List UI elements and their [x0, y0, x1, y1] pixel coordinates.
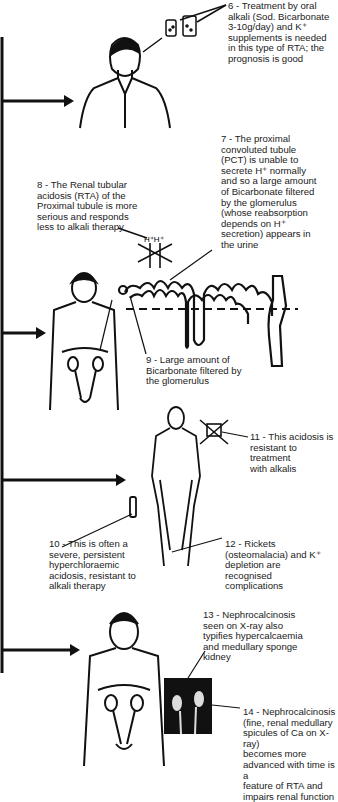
crossed-alkali-icon: [200, 420, 248, 444]
patient-figure-2-kidneys: [50, 273, 118, 410]
pill-bottles-icon: [143, 5, 226, 52]
note-14-nephrocalcinosis-progression: 14 - Nephrocalcinosis (fine, renal medul…: [243, 707, 338, 802]
patient-figure-4-kidneys: [84, 613, 164, 766]
xray-image: [164, 651, 240, 734]
note-10-hyperchloraemic: 10 - This is often a severe, persistent …: [49, 539, 136, 592]
note-7-pct: 7 - The proximal convoluted tubule (PCT)…: [221, 134, 316, 251]
note-11-resistant: 11 - This acidosis is resistant to treat…: [250, 432, 338, 474]
note-8-proximal-rta: 8 - The Renal tubular acidosis (RTA) of …: [37, 180, 137, 233]
note-6-treatment: 6 - Treatment by oral alkali (Sod. Bicar…: [228, 1, 329, 65]
note-12-rickets: 12 - Rickets (osteomalacia) and K⁺ deple…: [225, 539, 321, 592]
nephron-tubule: [119, 250, 298, 366]
blocked-h-secretion-icon: [118, 228, 172, 268]
note-13-nephrocalcinosis: 13 - Nephrocalcinosis seen on X-ray also…: [203, 610, 303, 663]
note-9-bicarbonate: 9 - Large amount of Bicarbonate filtered…: [146, 355, 241, 387]
patient-figure-1: [80, 38, 170, 128]
h-ion-label: H⁺H⁺: [144, 235, 164, 244]
